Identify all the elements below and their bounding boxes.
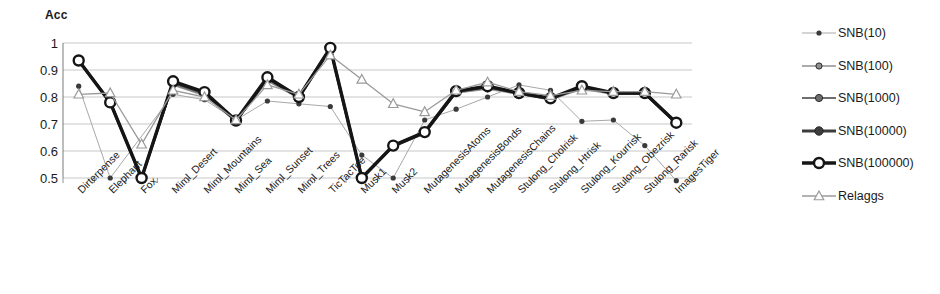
legend-marker-icon xyxy=(800,122,838,140)
data-point xyxy=(265,98,270,103)
data-point xyxy=(389,99,399,108)
data-point xyxy=(579,119,584,124)
series-line-snb100 xyxy=(79,50,677,178)
legend-item-snb10[interactable]: SNB(10) xyxy=(800,18,940,48)
legend-item-snb100000[interactable]: SNB(100000) xyxy=(800,148,940,178)
data-point xyxy=(328,104,333,109)
data-point xyxy=(674,178,679,183)
legend-marker-icon xyxy=(800,57,838,75)
legend-item-snb1000[interactable]: SNB(1000) xyxy=(800,83,940,113)
data-point xyxy=(485,94,490,99)
data-point xyxy=(388,141,398,151)
legend-marker-icon xyxy=(800,24,838,42)
series-line-snb100000 xyxy=(79,48,677,178)
data-point xyxy=(357,173,367,183)
legend-label: SNB(10) xyxy=(838,26,886,40)
data-point xyxy=(76,84,81,89)
plot-area: 0.50.60.70.80.91 DirterpenseElephantFoxM… xyxy=(0,0,720,294)
data-point xyxy=(420,127,430,137)
legend-item-snb10000[interactable]: SNB(10000) xyxy=(800,116,940,146)
data-point xyxy=(422,117,427,122)
data-point xyxy=(391,175,396,180)
legend-label: SNB(10000) xyxy=(838,124,907,138)
series-line-snb10000 xyxy=(79,48,677,178)
data-point xyxy=(105,88,115,97)
legend-label: SNB(100000) xyxy=(838,156,914,170)
legend-marker-icon xyxy=(800,89,838,107)
data-point xyxy=(357,75,367,84)
data-point xyxy=(74,56,84,66)
chart-legend: SNB(10)SNB(100)SNB(1000)SNB(10000)SNB(10… xyxy=(800,18,940,213)
data-point xyxy=(137,173,147,183)
series-line-relaggs xyxy=(79,55,677,144)
legend-label: SNB(100) xyxy=(838,59,893,73)
legend-marker-icon xyxy=(800,187,838,205)
legend-item-relaggs[interactable]: Relaggs xyxy=(800,181,940,211)
data-point xyxy=(108,175,113,180)
data-point xyxy=(611,117,616,122)
data-point xyxy=(671,118,681,128)
data-point xyxy=(359,153,364,158)
legend-label: Relaggs xyxy=(838,189,884,203)
chart-svg xyxy=(0,0,720,294)
data-point xyxy=(454,107,459,112)
legend-label: SNB(1000) xyxy=(838,91,900,105)
series-line-snb1000 xyxy=(79,49,677,178)
chart-container: Acc 0.50.60.70.80.91 DirterpenseElephant… xyxy=(0,0,940,294)
legend-item-snb100[interactable]: SNB(100) xyxy=(800,51,940,81)
legend-marker-icon xyxy=(800,154,838,172)
data-point xyxy=(642,143,647,148)
